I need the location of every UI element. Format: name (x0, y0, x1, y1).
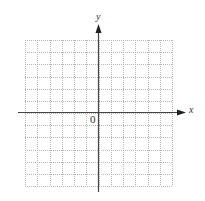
x-axis-arrow-icon (177, 110, 186, 116)
y-axis-label: y (96, 11, 100, 22)
x-axis-label: x (189, 104, 193, 115)
origin-label: 0 (90, 113, 96, 125)
y-axis-arrow-icon (96, 24, 102, 33)
coordinate-plane (0, 0, 205, 201)
